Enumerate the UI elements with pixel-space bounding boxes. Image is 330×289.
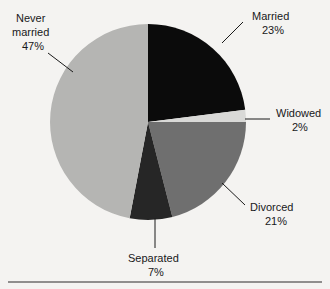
pie-slices	[50, 24, 246, 220]
label-divorced-pct: 21%	[265, 215, 287, 227]
pie-slice-married[interactable]	[148, 24, 245, 122]
label-separated-pct: 7%	[148, 266, 164, 278]
label-widowed-pct: 2%	[292, 121, 308, 133]
leader-line-never-married	[48, 53, 73, 72]
leader-line-married	[222, 22, 243, 43]
label-married-pct: 23%	[262, 24, 284, 36]
label-never-married-2: married	[12, 26, 49, 38]
label-divorced: Divorced	[250, 201, 293, 213]
label-widowed: Widowed	[276, 107, 321, 119]
pie-chart-svg: Married 23% Widowed 2% Divorced 21% Sepa…	[0, 0, 330, 289]
label-never-married-1: Never	[16, 12, 46, 24]
pie-chart-figure: Married 23% Widowed 2% Divorced 21% Sepa…	[0, 0, 330, 289]
label-married: Married	[252, 10, 289, 22]
label-separated: Separated	[128, 252, 179, 264]
label-never-married-pct: 47%	[22, 40, 44, 52]
leader-line-divorced	[222, 183, 245, 205]
pie-slice-never-married[interactable]	[50, 24, 148, 218]
